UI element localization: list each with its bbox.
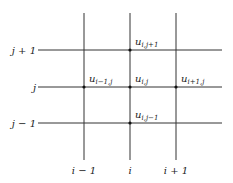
grid-node-point [128, 85, 131, 88]
node-label: ui+1,j [181, 73, 205, 86]
column-label: i + 1 [164, 165, 188, 176]
node-label: ui,j−1 [135, 109, 158, 122]
column-label: i − 1 [72, 165, 96, 176]
grid-node-point [174, 85, 177, 88]
node-label: ui,j+1 [135, 36, 158, 49]
grid-svg: i − 1ii + 1j + 1jj − 1ui,j+1ui−1,jui,jui… [0, 0, 233, 183]
grid-node-point [128, 48, 131, 51]
node-label: ui,j [135, 73, 149, 86]
node-label: ui−1,j [89, 73, 113, 86]
grid-node-point [82, 85, 85, 88]
row-label: j [31, 82, 36, 93]
column-label: i [128, 165, 131, 176]
grid-node-point [128, 121, 131, 124]
row-label: j + 1 [10, 45, 36, 56]
row-label: j − 1 [10, 118, 36, 129]
grid-diagram: i − 1ii + 1j + 1jj − 1ui,j+1ui−1,jui,jui… [0, 0, 233, 183]
